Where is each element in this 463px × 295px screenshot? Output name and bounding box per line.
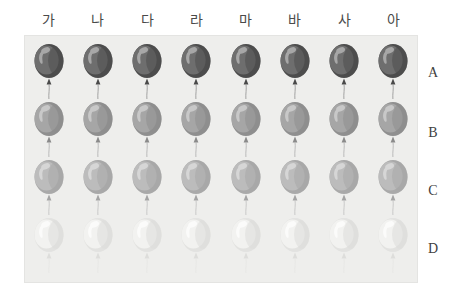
balloon-icon xyxy=(227,40,265,100)
row-label-column: A B C D xyxy=(420,35,456,283)
balloon-row-b xyxy=(24,96,418,158)
balloon-icon xyxy=(276,40,314,100)
balloon-row-a xyxy=(24,38,418,100)
balloon-icon xyxy=(30,40,68,100)
balloon-panel xyxy=(24,35,418,283)
balloon-icon xyxy=(177,40,215,100)
balloon-cell xyxy=(270,154,319,216)
balloon-icon xyxy=(227,214,265,274)
balloon-cell xyxy=(24,212,73,274)
balloon-cell xyxy=(24,38,73,100)
balloon-grid-figure: 가 나 다 라 마 바 사 아 A B C D xyxy=(0,0,463,295)
balloon-icon xyxy=(374,98,412,158)
balloon-cell xyxy=(320,96,369,158)
balloon-icon xyxy=(128,40,166,100)
row-label-b: B xyxy=(420,126,446,140)
balloon-icon xyxy=(79,156,117,216)
balloon-icon xyxy=(177,156,215,216)
balloon-icon xyxy=(374,40,412,100)
balloon-icon xyxy=(325,98,363,158)
balloon-icon xyxy=(325,40,363,100)
balloon-cell xyxy=(172,154,221,216)
balloon-icon xyxy=(30,214,68,274)
column-header-8: 아 xyxy=(369,13,418,27)
row-label-c: C xyxy=(420,184,446,198)
column-header-6: 바 xyxy=(270,13,319,27)
column-header-5: 마 xyxy=(221,13,270,27)
balloon-cell xyxy=(123,38,172,100)
balloon-icon xyxy=(227,98,265,158)
balloon-icon xyxy=(227,156,265,216)
balloon-cell xyxy=(369,96,418,158)
balloon-cell xyxy=(270,38,319,100)
balloon-icon xyxy=(30,156,68,216)
balloon-cell xyxy=(221,38,270,100)
balloon-icon xyxy=(30,98,68,158)
column-header-2: 나 xyxy=(73,13,122,27)
balloon-cell xyxy=(369,212,418,274)
balloon-cell xyxy=(320,38,369,100)
column-header-7: 사 xyxy=(320,13,369,27)
balloon-icon xyxy=(128,98,166,158)
balloon-cell xyxy=(123,154,172,216)
balloon-cell xyxy=(123,212,172,274)
balloon-cell xyxy=(172,38,221,100)
balloon-cell xyxy=(221,96,270,158)
balloon-cell xyxy=(320,154,369,216)
balloon-cell xyxy=(369,154,418,216)
balloon-icon xyxy=(79,40,117,100)
column-header-row: 가 나 다 라 마 바 사 아 xyxy=(24,6,418,34)
balloon-cell xyxy=(73,96,122,158)
balloon-icon xyxy=(79,98,117,158)
balloon-cell xyxy=(73,38,122,100)
balloon-cell xyxy=(123,96,172,158)
balloon-icon xyxy=(128,214,166,274)
balloon-icon xyxy=(276,156,314,216)
balloon-icon xyxy=(325,156,363,216)
row-label-a: A xyxy=(420,66,446,80)
balloon-cell xyxy=(270,212,319,274)
row-label-d: D xyxy=(420,242,446,256)
balloon-cell xyxy=(73,154,122,216)
balloon-icon xyxy=(128,156,166,216)
balloon-cell xyxy=(320,212,369,274)
balloon-icon xyxy=(374,214,412,274)
balloon-row-c xyxy=(24,154,418,216)
balloon-cell xyxy=(24,154,73,216)
balloon-icon xyxy=(374,156,412,216)
balloon-cell xyxy=(73,212,122,274)
balloon-cell xyxy=(369,38,418,100)
balloon-cell xyxy=(221,154,270,216)
balloon-icon xyxy=(79,214,117,274)
column-header-3: 다 xyxy=(123,13,172,27)
balloon-row-d xyxy=(24,212,418,274)
balloon-icon xyxy=(276,98,314,158)
balloon-cell xyxy=(172,212,221,274)
balloon-icon xyxy=(177,98,215,158)
balloon-icon xyxy=(325,214,363,274)
column-header-1: 가 xyxy=(24,13,73,27)
balloon-cell xyxy=(24,96,73,158)
column-header-4: 라 xyxy=(172,13,221,27)
balloon-cell xyxy=(270,96,319,158)
balloon-cell xyxy=(221,212,270,274)
balloon-icon xyxy=(177,214,215,274)
balloon-icon xyxy=(276,214,314,274)
balloon-cell xyxy=(172,96,221,158)
